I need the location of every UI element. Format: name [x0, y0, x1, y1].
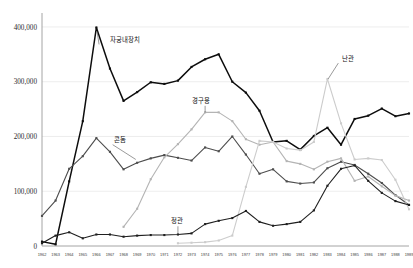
series-marker: [231, 217, 233, 219]
series-marker: [299, 163, 301, 165]
y-tick-label: 400,000: [14, 24, 38, 32]
series-난관: [177, 78, 410, 244]
series-marker: [163, 156, 165, 158]
series-marker: [381, 159, 383, 161]
x-tick-label: 1984: [337, 252, 346, 257]
x-tick-label: 1977: [242, 252, 251, 257]
series-marker: [354, 158, 356, 160]
series-marker: [95, 137, 97, 139]
x-tick-label: 1971: [160, 252, 169, 257]
series-marker: [218, 150, 220, 152]
series-marker: [340, 157, 342, 159]
annotation-콘돔: 콘돔: [113, 136, 136, 160]
series-marker: [299, 183, 301, 185]
series-marker: [163, 234, 165, 236]
series-marker: [245, 210, 247, 212]
series-marker: [258, 110, 260, 112]
series-marker: [190, 242, 192, 244]
x-tick-label: 1979: [269, 252, 278, 257]
series-marker: [367, 175, 369, 177]
series-marker: [245, 138, 247, 140]
series-marker: [204, 241, 206, 243]
annotation-정관: 정관: [171, 216, 183, 235]
x-tick-label: 1974: [201, 252, 210, 257]
series-marker: [313, 168, 315, 170]
series-marker: [245, 92, 247, 94]
x-tick-label: 1983: [323, 252, 332, 257]
series-marker: [95, 233, 97, 235]
series-marker: [408, 208, 410, 210]
series-marker: [68, 231, 70, 233]
series-marker: [190, 66, 192, 68]
series-marker: [109, 151, 111, 153]
series-marker: [150, 157, 152, 159]
x-tick-label: 1981: [296, 252, 305, 257]
series-marker: [190, 232, 192, 234]
chart-container: 0100,000200,000300,000400,000 1962196319…: [0, 0, 413, 268]
x-tick-label: 1965: [78, 252, 87, 257]
series-marker: [218, 239, 220, 241]
series-marker: [55, 243, 57, 245]
x-tick-label: 1970: [146, 252, 155, 257]
series-정관: [41, 164, 410, 244]
y-tick-label: 200,000: [14, 133, 38, 141]
series-marker: [394, 195, 396, 197]
series-label: 콘돔: [114, 136, 126, 143]
series-marker: [95, 26, 97, 28]
x-tick-label: 1964: [65, 252, 74, 257]
series-marker: [41, 242, 43, 244]
x-tick-label: 1982: [310, 252, 319, 257]
series-marker: [204, 223, 206, 225]
series-marker: [204, 146, 206, 148]
series-marker: [286, 140, 288, 142]
x-tick-label: 1986: [364, 252, 373, 257]
series-marker: [109, 233, 111, 235]
x-tick-label: 1962: [38, 252, 47, 257]
series-marker: [367, 157, 369, 159]
series-marker: [68, 168, 70, 170]
series-marker: [123, 226, 125, 228]
series-자궁내장치: [41, 26, 410, 245]
series-marker: [218, 111, 220, 113]
x-tick-label: 1985: [350, 252, 359, 257]
series-marker: [367, 180, 369, 182]
annotation-경구용: 경구용: [192, 96, 210, 113]
series-marker: [381, 185, 383, 187]
series-label: 경구용: [192, 96, 210, 105]
series-label: 정관: [171, 216, 183, 224]
series-marker: [231, 120, 233, 122]
series-marker: [82, 237, 84, 239]
annotation-leader-line: [113, 145, 136, 160]
x-tick-label: 1988: [391, 252, 400, 257]
series-marker: [123, 236, 125, 238]
series-marker: [258, 173, 260, 175]
series-marker: [326, 185, 328, 187]
series-marker: [367, 173, 369, 175]
series-marker: [109, 68, 111, 70]
x-tick-label: 1968: [119, 252, 128, 257]
series-marker: [354, 180, 356, 182]
line-chart-plot: 0100,000200,000300,000400,000 1962196319…: [0, 0, 413, 268]
series-marker: [136, 235, 138, 237]
series-marker: [123, 100, 125, 102]
y-tick-label: 300,000: [14, 78, 38, 86]
series-marker: [204, 58, 206, 60]
series-marker: [408, 204, 410, 206]
series-marker: [340, 144, 342, 146]
series-marker: [313, 141, 315, 143]
series-marker: [245, 186, 247, 188]
x-tick-label: 1980: [282, 252, 291, 257]
x-tick-label: 1987: [377, 252, 386, 257]
series-marker: [326, 161, 328, 163]
x-tick-label: 1967: [106, 252, 115, 257]
x-tick-label: 1969: [133, 252, 142, 257]
annotation-leader-line: [328, 63, 338, 79]
axes-group: [42, 13, 409, 246]
series-line: [42, 166, 409, 244]
y-tick-label: 100,000: [14, 188, 38, 196]
x-tick-label: 1989: [405, 252, 413, 257]
series-marker: [177, 157, 179, 159]
series-marker: [313, 209, 315, 211]
series-marker: [299, 149, 301, 151]
series-marker: [394, 179, 396, 181]
